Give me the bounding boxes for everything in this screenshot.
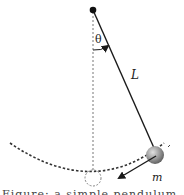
- pendulum-diagram: [0, 0, 184, 195]
- angle-theta-label: θ: [95, 34, 102, 45]
- caption-text: Figure: a simple pendulum of length L an…: [2, 189, 182, 195]
- swing-arc-path: [10, 143, 164, 172]
- equilibrium-position-circle: [85, 170, 101, 186]
- pendulum-bob: [146, 146, 164, 164]
- angle-arc-arrow: [93, 46, 108, 50]
- length-label: L: [131, 69, 139, 81]
- tangent-tick: [168, 145, 170, 147]
- pendulum-rod: [93, 10, 154, 148]
- mass-label: m: [152, 172, 162, 183]
- pivot-point: [90, 7, 97, 14]
- caption-partial: Figure: a simple pendulum of length L an…: [2, 189, 182, 195]
